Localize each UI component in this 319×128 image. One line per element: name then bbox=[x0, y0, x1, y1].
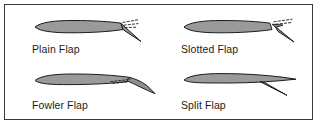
plain-flap-surface bbox=[121, 23, 141, 41]
panel-fowler-flap: Fowler Flap bbox=[15, 67, 165, 121]
slotted-airfoil-body bbox=[184, 21, 272, 33]
panel-label-slotted-flap: Slotted Flap bbox=[170, 43, 319, 56]
slotted-flap-illustration bbox=[170, 13, 318, 47]
plain-flap-dashed-marks bbox=[123, 20, 139, 28]
panel-label-split-flap: Split Flap bbox=[170, 99, 319, 112]
fowler-flap-surface bbox=[127, 77, 155, 93]
fowler-flap-illustration bbox=[15, 67, 165, 101]
slotted-flap-dashed-marks bbox=[274, 19, 292, 24]
panel-label-plain-flap: Plain Flap bbox=[15, 43, 182, 56]
slotted-flap-surface bbox=[275, 26, 294, 42]
panel-slotted-flap: Slotted Flap bbox=[170, 13, 318, 65]
split-flap-illustration bbox=[170, 67, 318, 101]
split-airfoil-body bbox=[184, 74, 296, 83]
plain-airfoil-body bbox=[35, 21, 123, 33]
split-flap-surface bbox=[260, 82, 287, 96]
wing-flap-types-figure: Plain Flap Slotted Flap bbox=[0, 0, 319, 128]
slotted-flap-leading-edge bbox=[272, 24, 283, 27]
panel-split-flap: Split Flap bbox=[170, 67, 318, 121]
panel-label-fowler-flap: Fowler Flap bbox=[15, 99, 182, 112]
plain-flap-illustration bbox=[15, 13, 165, 47]
figure-frame: Plain Flap Slotted Flap bbox=[4, 4, 313, 120]
panel-plain-flap: Plain Flap bbox=[15, 13, 165, 65]
